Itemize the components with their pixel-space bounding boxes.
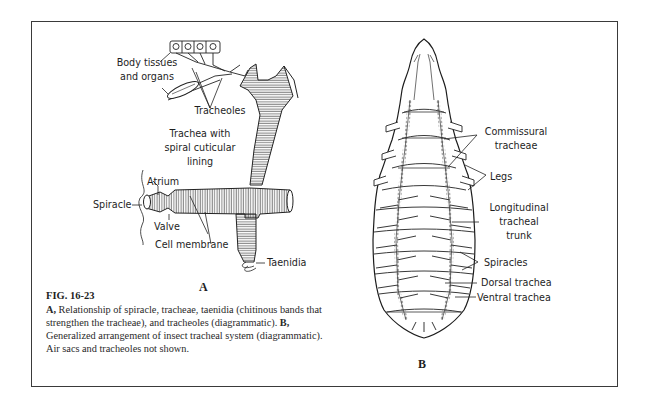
upper-trachea (240, 64, 298, 185)
body-tissue-cells (170, 41, 220, 53)
label-tracheoles: Tracheoles (180, 104, 260, 118)
label-longitudinal-line1: Longitudinal (476, 201, 562, 215)
figure-number: FIG. 16-23 (46, 290, 94, 301)
label-trachea-line1: Trachea with (160, 127, 240, 141)
label-longitudinal-line3: trunk (476, 229, 562, 243)
caption-b-label: B, (280, 317, 289, 328)
panel-b-letter: B (418, 357, 426, 372)
label-body-tissues-line1: Body tissues (112, 56, 182, 70)
figure-caption: A, Relationship of spiracle, tracheae, t… (46, 303, 336, 355)
label-commissural-line2: tracheae (476, 139, 556, 153)
panel-a-letter: A (199, 280, 208, 295)
label-legs: Legs (490, 170, 512, 184)
lower-trachea (236, 214, 256, 271)
label-taenidia: Taenidia (267, 256, 306, 270)
label-longitudinal-line2: tracheal (476, 215, 562, 229)
label-spiracles: Spiracles (484, 256, 528, 270)
label-dorsal-trachea: Dorsal trachea (481, 276, 552, 290)
label-atrium: Atrium (147, 175, 179, 189)
caption-b-text: Generalized arrangement of insect trache… (46, 330, 322, 354)
label-commissural-line1: Commissural (476, 125, 556, 139)
label-spiracle: Spiracle (93, 198, 132, 212)
label-trachea-line3: lining (160, 155, 240, 169)
label-trachea-line2: spiral cuticular (160, 141, 240, 155)
label-cell-membrane: Cell membrane (155, 238, 228, 252)
label-ventral-trachea: Ventral trachea (477, 291, 551, 305)
caption-a-label: A, (46, 304, 56, 315)
label-valve: Valve (154, 220, 180, 234)
label-body-tissues-line2: and organs (112, 70, 182, 84)
panel-b-drawing (373, 39, 486, 338)
